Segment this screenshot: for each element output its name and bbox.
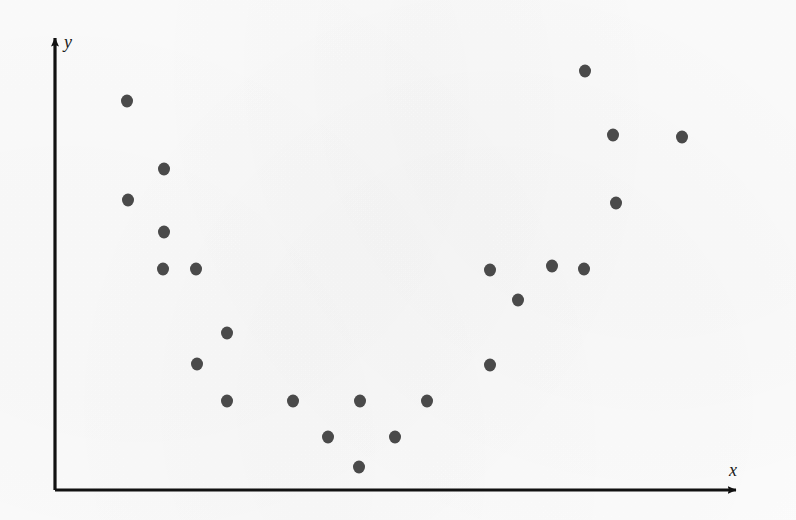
y-axis-label: y — [64, 33, 72, 51]
data-point — [484, 359, 496, 372]
data-point — [287, 395, 299, 408]
data-point — [221, 327, 233, 340]
plot-canvas — [0, 0, 796, 520]
axes-group — [55, 38, 736, 490]
data-point — [421, 395, 433, 408]
data-point — [322, 431, 334, 444]
data-point — [546, 260, 558, 273]
data-point — [389, 431, 401, 444]
scatter-plot-figure: y x — [0, 0, 796, 520]
data-point — [122, 194, 134, 207]
data-point — [190, 263, 202, 276]
data-point — [221, 395, 233, 408]
data-point — [121, 95, 133, 108]
data-point — [676, 131, 688, 144]
data-point — [578, 263, 590, 276]
data-point — [157, 263, 169, 276]
data-point — [158, 226, 170, 239]
data-point — [512, 294, 524, 307]
data-point — [191, 358, 203, 371]
data-point — [484, 264, 496, 277]
data-point — [354, 395, 366, 408]
data-point — [607, 129, 619, 142]
x-axis-label: x — [729, 461, 737, 479]
data-point — [353, 461, 365, 474]
data-point — [158, 163, 170, 176]
data-point — [579, 65, 591, 78]
data-points-group — [121, 65, 688, 474]
data-point — [610, 197, 622, 210]
